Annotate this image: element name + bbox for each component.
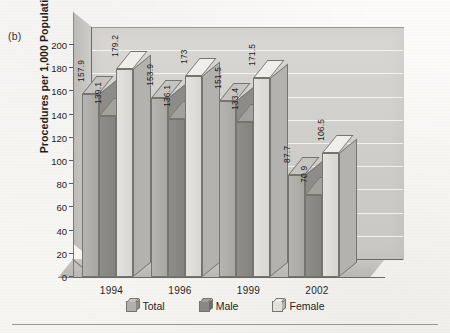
y-axis-title: Procedures per 1,000 Population [38,0,50,180]
bar-female-1999[interactable] [253,78,270,277]
bar-value-label: 173 [179,50,189,65]
bar-front-face [116,69,133,277]
y-tick-label: 60 [56,202,67,213]
y-tick-label: 80 [56,179,67,190]
legend-label: Total [143,300,165,312]
bar-front-face [168,119,185,277]
legend-swatch-side [209,298,213,310]
bar-front-face [185,76,202,277]
x-axis-label-1996: 1996 [168,285,191,296]
y-tick-label: 100 [51,156,67,167]
bar-front-face [82,94,99,277]
bar-total-1994[interactable] [82,94,99,277]
legend-label: Male [216,300,239,312]
bar-front-face [236,122,253,277]
bar-value-label: 136.1 [162,85,172,107]
bar-female-2002[interactable] [322,153,339,277]
bar-value-label: 157.9 [76,60,86,82]
legend-swatch-side [282,298,286,310]
bar-total-2002[interactable] [288,175,305,277]
bar-value-label: 70.9 [299,165,309,182]
bar-male-1994[interactable] [99,116,116,277]
bar-side-face [202,62,220,277]
y-tick-label: 120 [51,132,67,143]
legend-swatch-female [272,301,283,312]
bar-value-label: 171.5 [247,44,257,66]
bar-value-label: 153.9 [145,64,155,86]
y-tick-label: 160 [51,86,67,97]
bar-front-face [305,195,322,277]
chart-plot-area: 020406080100120140160180200 157.9139.117… [73,27,403,277]
x-axis-label-1999: 1999 [237,285,260,296]
bar-total-1999[interactable] [219,101,236,277]
legend-label: Female [289,300,324,312]
bar-female-1994[interactable] [116,69,133,277]
bar-side-face [339,139,357,277]
y-tick-label: 0 [62,272,67,283]
bar-value-label: 179.2 [110,35,120,57]
y-tick-label: 180 [51,63,67,74]
bottom-divider-rule [12,324,438,325]
bar-front-face [288,175,305,277]
legend-item-female[interactable]: Female [272,300,324,312]
y-tick-label: 140 [51,109,67,120]
legend-item-total[interactable]: Total [126,300,165,312]
legend-swatch-male [199,301,210,312]
bar-front-face [219,101,236,277]
bar-value-label: 139.1 [93,81,103,103]
panel-label: (b) [8,30,21,42]
bar-value-label: 133.4 [230,88,240,110]
x-axis-label-2002: 2002 [305,285,328,296]
bar-male-1996[interactable] [168,119,185,277]
bar-front-face [151,98,168,277]
bar-value-label: 151.5 [213,67,223,89]
bar-front-face [253,78,270,277]
bar-male-2002[interactable] [305,195,322,277]
bar-series-container: 157.9139.1179.2153.9136.1173151.5133.417… [73,27,403,277]
bar-front-face [99,116,116,277]
bar-side-face [133,55,151,277]
bar-value-label: 87.7 [282,146,292,163]
y-tick-label: 200 [51,40,67,51]
legend-item-male[interactable]: Male [199,300,239,312]
bar-value-label: 106.5 [316,119,326,141]
bar-front-face [322,153,339,277]
chart-legend: TotalMaleFemale [0,300,450,312]
bar-male-1999[interactable] [236,122,253,277]
bar-side-face [270,63,288,277]
y-tick-label: 20 [56,248,67,259]
y-tick-label: 40 [56,225,67,236]
bar-female-1996[interactable] [185,76,202,277]
bar-total-1996[interactable] [151,98,168,277]
legend-swatch-total [126,301,137,312]
x-axis-label-1994: 1994 [100,285,123,296]
